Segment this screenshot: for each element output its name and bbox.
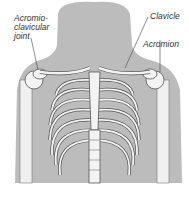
spine: [89, 130, 100, 183]
ac-joint-label: Acromio- clavicular joint: [14, 14, 49, 41]
sternum: [89, 72, 100, 130]
label-line: joint: [14, 32, 49, 41]
clavicle-label: Clavicle: [150, 12, 180, 21]
shoulder-anatomy-diagram: Acromio- clavicular joint Clavicle Acrom…: [0, 0, 189, 201]
acromion-label: Acromion: [143, 40, 179, 49]
